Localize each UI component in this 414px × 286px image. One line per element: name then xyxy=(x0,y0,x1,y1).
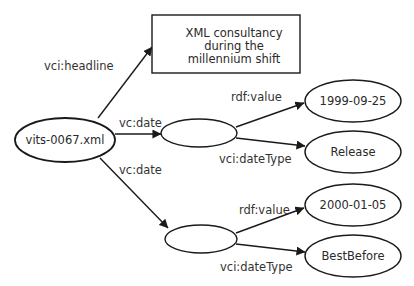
node-subject: vits-0067.xml xyxy=(15,118,115,162)
node-type-2-label: BestBefore xyxy=(321,249,384,263)
edge-datetype-1 xyxy=(236,138,305,146)
node-value-2-label: 2000-01-05 xyxy=(320,198,387,212)
node-headline-line-3: millennium shift xyxy=(188,52,281,66)
node-headline-line-2: during the xyxy=(204,39,264,53)
edge-headline xyxy=(98,47,152,118)
edge-label-date-1: vc:date xyxy=(119,116,162,130)
node-value-1-label: 1999-09-25 xyxy=(320,94,387,108)
node-type-1: Release xyxy=(305,131,401,173)
edge-label-datetype-1: vci:dateType xyxy=(219,152,292,166)
node-type-2: BestBefore xyxy=(305,235,401,277)
node-blank-1 xyxy=(161,119,237,147)
edge-label-value-2: rdf:value xyxy=(239,203,290,217)
node-subject-label: vits-0067.xml xyxy=(26,133,105,147)
node-headline-line-1: XML consultancy xyxy=(186,26,283,40)
edge-label-datetype-2: vci:dateType xyxy=(220,260,293,274)
node-blank-2 xyxy=(165,225,237,253)
edge-label-date-2: vc:date xyxy=(119,163,162,177)
node-value-2: 2000-01-05 xyxy=(305,184,401,226)
node-headline: XML consultancy during the millennium sh… xyxy=(152,15,300,73)
edge-label-value-1: rdf:value xyxy=(231,90,282,104)
rdf-diagram: vci:headline vc:date vc:date rdf:value v… xyxy=(0,0,414,286)
node-value-1: 1999-09-25 xyxy=(305,80,401,122)
edge-datetype-2 xyxy=(236,244,305,252)
edge-label-headline: vci:headline xyxy=(44,59,114,73)
edge-value-1 xyxy=(236,103,304,127)
node-type-1-label: Release xyxy=(331,145,376,159)
